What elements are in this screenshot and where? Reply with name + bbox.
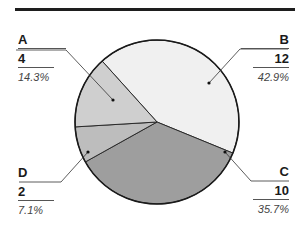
label-c-value: 10	[229, 181, 289, 199]
label-b-name: B	[229, 33, 289, 48]
slice-a-dot	[111, 98, 114, 101]
label-d-name: D	[18, 166, 78, 181]
slice-c-dot	[223, 150, 226, 153]
pie-slices	[75, 40, 239, 204]
slice-b-dot	[207, 81, 210, 84]
label-a: A 4 14.3%	[18, 33, 78, 83]
label-a-pct: 14.3%	[18, 68, 78, 83]
label-c-name: C	[229, 165, 289, 180]
slice-d-dot	[86, 150, 89, 153]
label-a-value: 4	[18, 49, 78, 67]
label-d-pct: 7.1%	[18, 201, 78, 216]
label-b: B 12 42.9%	[229, 33, 289, 83]
label-d-value: 2	[18, 182, 78, 200]
label-a-name: A	[18, 33, 78, 48]
label-d: D 2 7.1%	[18, 166, 78, 216]
label-c: C 10 35.7%	[229, 165, 289, 215]
label-b-pct: 42.9%	[229, 68, 289, 83]
label-c-pct: 35.7%	[229, 200, 289, 215]
label-b-value: 12	[229, 49, 289, 67]
